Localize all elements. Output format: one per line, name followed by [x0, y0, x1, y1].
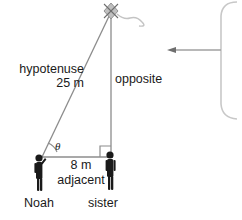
hypotenuse-value: 25 m — [56, 76, 84, 90]
opposite-label: opposite — [115, 72, 162, 86]
callout-rounded-rectangle — [221, 2, 237, 119]
hypotenuse-word: hypotenuse — [19, 62, 84, 76]
kite-trigonometry-diagram: hypotenuse25 m opposite 8 m adjacent Noa… — [0, 0, 242, 220]
kite-icon — [104, 3, 144, 26]
person-sister-label: sister — [88, 196, 118, 210]
callout-arrow-head-icon — [167, 47, 176, 53]
adjacent-length-label: 8 m — [56, 158, 106, 172]
hypotenuse-label: hypotenuse25 m — [6, 62, 84, 90]
angle-theta-label: θ — [55, 139, 60, 153]
diagram-canvas — [0, 0, 242, 220]
person-noah-figure — [34, 154, 46, 191]
adjacent-label: adjacent — [48, 173, 114, 187]
person-noah-label: Noah — [24, 196, 54, 210]
kite-tail-icon — [117, 14, 144, 26]
